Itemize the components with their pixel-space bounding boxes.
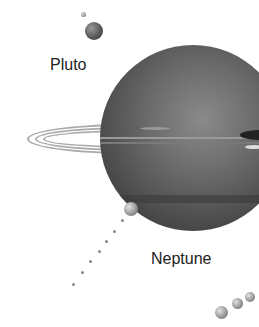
orbit-dot [98, 250, 101, 253]
pluto-label: Pluto [50, 56, 86, 74]
small-moon [232, 298, 243, 309]
orbit-dot [105, 240, 108, 243]
small-moon [245, 292, 255, 302]
orbit-dot [81, 271, 84, 274]
neptune-planet [100, 45, 259, 231]
orbit-dot [121, 219, 124, 222]
neptune-label: Neptune [151, 250, 212, 268]
triton-moon [124, 202, 138, 216]
planet-band [100, 137, 259, 139]
planet-band [100, 142, 259, 144]
bright-cloud [245, 145, 259, 149]
small-moon [215, 306, 228, 319]
orbit-dot [72, 283, 75, 286]
diagram: Pluto Neptune [0, 0, 259, 327]
pluto-body [85, 22, 103, 40]
orbit-dot [113, 230, 116, 233]
bright-cloud [140, 127, 170, 130]
pluto-moon-charon [81, 12, 86, 17]
orbit-dot [89, 260, 92, 263]
planet-band-dark [100, 195, 259, 203]
